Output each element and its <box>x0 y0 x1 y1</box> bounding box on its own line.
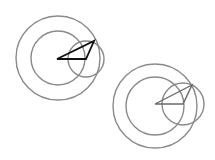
triangle <box>155 85 192 104</box>
figure-1 <box>16 16 104 100</box>
figure-2 <box>113 64 204 148</box>
middle-circle <box>126 77 184 135</box>
diagram-canvas <box>0 0 215 160</box>
